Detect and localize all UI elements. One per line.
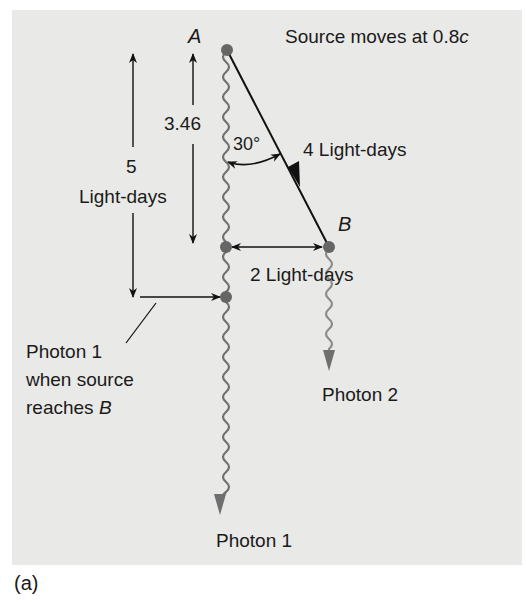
label-point-a: A bbox=[188, 25, 201, 47]
label-distance-5-value: 5 bbox=[126, 156, 137, 178]
photon1-marker-dot bbox=[220, 291, 232, 303]
photon2-arrowhead-icon bbox=[323, 350, 335, 371]
point-a-dot bbox=[221, 44, 233, 56]
label-photon1-note-line2: when source bbox=[26, 369, 134, 391]
label-path-ab: 4 Light-days bbox=[303, 139, 407, 161]
label-angle: 30° bbox=[233, 133, 260, 155]
label-distance-346: 3.46 bbox=[164, 113, 201, 135]
label-horizontal-distance: 2 Light-days bbox=[250, 264, 354, 286]
figure-caption: (a) bbox=[14, 572, 38, 595]
label-photon1: Photon 1 bbox=[216, 530, 292, 552]
note-point-b: B bbox=[99, 397, 112, 418]
source-speed-text: Source moves at 0.8 bbox=[285, 26, 459, 47]
label-photon1-note-line1: Photon 1 bbox=[26, 341, 102, 363]
path-arrowhead-icon bbox=[288, 161, 300, 187]
label-point-b: B bbox=[338, 213, 351, 235]
note-reaches-text: reaches bbox=[26, 397, 99, 418]
speed-of-light-symbol: c bbox=[459, 26, 469, 47]
photon1-arrowhead-icon bbox=[214, 494, 226, 515]
label-photon1-note-line3: reaches B bbox=[26, 397, 112, 419]
label-source-speed: Source moves at 0.8c bbox=[285, 26, 469, 48]
photon1-at-b-time-dot bbox=[220, 241, 232, 253]
angle-arc bbox=[228, 154, 280, 165]
diagram-graphics bbox=[0, 0, 526, 609]
photon1-note-leader bbox=[126, 303, 156, 343]
point-b-dot bbox=[323, 241, 335, 253]
label-photon2: Photon 2 bbox=[322, 384, 398, 406]
photon1-wave bbox=[214, 52, 229, 515]
label-distance-5-unit: Light-days bbox=[79, 186, 167, 208]
